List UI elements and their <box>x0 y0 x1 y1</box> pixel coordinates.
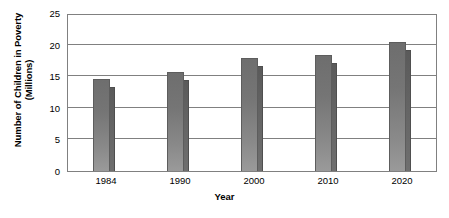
y-axis-tick-label: 5 <box>38 135 60 145</box>
y-axis-tick-label: 10 <box>38 104 60 114</box>
x-axis-tick-label: 1984 <box>76 176 136 186</box>
bar-front <box>167 72 184 171</box>
x-axis-tick-label: 2010 <box>298 176 358 186</box>
y-axis-tick-label: 15 <box>38 72 60 82</box>
y-axis-tick-label: 0 <box>38 167 60 177</box>
x-axis-tick-label: 2020 <box>372 176 432 186</box>
x-axis-tick-label: 1990 <box>150 176 210 186</box>
bar-front <box>93 79 110 171</box>
y-axis-tick-label: 25 <box>38 9 60 19</box>
x-axis-title: Year <box>0 191 449 202</box>
x-axis-tick-label: 2000 <box>224 176 284 186</box>
y-axis-tick-label: 20 <box>38 41 60 51</box>
bar-front <box>241 58 258 171</box>
bar-front <box>389 42 406 171</box>
gridline <box>68 44 436 45</box>
plot-area <box>67 14 437 172</box>
bar-front <box>315 55 332 171</box>
poverty-bar-chart: Number of Children in Poverty (Millions)… <box>0 0 449 218</box>
